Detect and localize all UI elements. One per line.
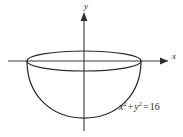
x-axis-arrowhead <box>160 58 168 65</box>
y-axis-label: y <box>84 2 88 11</box>
equation-label: x2+y2=16 <box>119 102 160 112</box>
x-axis-label: x <box>172 52 176 61</box>
equation-rhs: 16 <box>150 101 160 112</box>
y-axis-arrowhead <box>81 12 88 21</box>
equation-equals: = <box>142 101 150 112</box>
figure-canvas <box>0 0 183 137</box>
hemisphere-figure: y x x2+y2=16 <box>0 0 183 137</box>
